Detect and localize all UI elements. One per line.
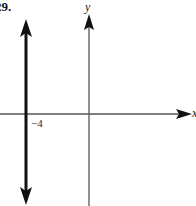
tick-label-neg4: −4 bbox=[31, 118, 43, 129]
x-axis-label: x bbox=[192, 107, 196, 119]
problem-number: 29. bbox=[0, 0, 11, 13]
coordinate-plane bbox=[0, 0, 196, 206]
graph-figure: 29. y x −4 bbox=[0, 0, 196, 206]
y-axis-label: y bbox=[85, 1, 90, 13]
